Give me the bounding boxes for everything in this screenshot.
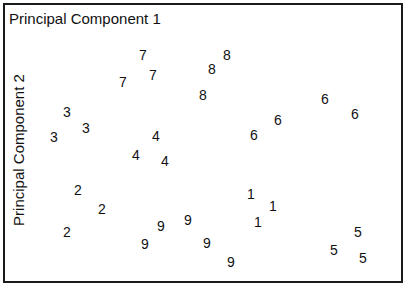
data-point-label: 7 (119, 75, 127, 89)
data-point-label: 9 (157, 219, 165, 233)
data-point-label: 2 (98, 202, 106, 216)
data-point-label: 6 (351, 107, 359, 121)
data-point-label: 1 (269, 199, 277, 213)
data-point-label: 5 (359, 251, 367, 265)
data-point-label: 9 (184, 213, 192, 227)
data-point-label: 5 (330, 243, 338, 257)
data-point-label: 3 (82, 121, 90, 135)
data-point-label: 6 (274, 113, 282, 127)
x-axis-title: Principal Component 1 (9, 10, 161, 27)
data-point-label: 4 (132, 148, 140, 162)
data-point-label: 4 (161, 154, 169, 168)
data-point-label: 9 (141, 237, 149, 251)
data-point-label: 1 (247, 187, 255, 201)
data-point-label: 6 (250, 128, 258, 142)
data-point-label: 7 (149, 68, 157, 82)
data-point-label: 8 (199, 88, 207, 102)
data-point-label: 8 (208, 62, 216, 76)
data-point-label: 6 (321, 92, 329, 106)
data-point-label: 9 (203, 236, 211, 250)
data-point-label: 2 (63, 225, 71, 239)
data-point-label: 1 (254, 215, 262, 229)
data-point-label: 3 (50, 130, 58, 144)
data-point-label: 3 (63, 105, 71, 119)
data-point-label: 8 (223, 48, 231, 62)
data-point-label: 7 (139, 48, 147, 62)
data-point-label: 2 (74, 183, 82, 197)
data-point-label: 4 (152, 129, 160, 143)
data-point-label: 9 (227, 255, 235, 269)
y-axis-title: Principal Component 2 (10, 74, 27, 226)
data-point-label: 5 (354, 225, 362, 239)
